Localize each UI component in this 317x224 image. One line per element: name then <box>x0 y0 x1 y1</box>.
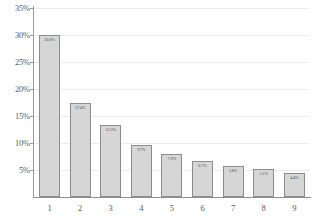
bar-value-label: 5.8% <box>224 168 243 173</box>
y-axis-tick-label: 35% <box>15 3 30 13</box>
bar: 5.8% <box>223 166 244 197</box>
y-axis-tick <box>30 62 33 63</box>
x-axis-tick-label: 7 <box>223 203 244 213</box>
y-axis-tick <box>30 8 33 9</box>
gridline <box>33 35 309 36</box>
y-axis-tick <box>30 35 33 36</box>
y-axis-tick <box>30 170 33 171</box>
x-axis-tick-label: 2 <box>70 203 91 213</box>
y-axis-tick <box>30 89 33 90</box>
bar-chart: 5%10%15%20%25%30%35% 30.0%17.4%13.3%9.7%… <box>0 0 317 224</box>
bar: 5.1% <box>253 169 274 197</box>
bar: 4.4% <box>284 173 305 197</box>
x-axis-tick-label: 6 <box>192 203 213 213</box>
x-axis-tick-label: 9 <box>284 203 305 213</box>
bar: 9.7% <box>131 145 152 197</box>
bar: 6.7% <box>192 161 213 197</box>
y-axis-labels: 5%10%15%20%25%30%35% <box>0 0 30 224</box>
gridline <box>33 62 309 63</box>
y-axis-tick-label: 5% <box>19 165 30 175</box>
bar-value-label: 30.0% <box>40 37 59 42</box>
y-axis-tick <box>30 143 33 144</box>
bar-value-label: 7.9% <box>162 156 181 161</box>
gridline <box>33 8 309 9</box>
bar-value-label: 6.7% <box>193 163 212 168</box>
x-axis-tick-label: 3 <box>100 203 121 213</box>
bar-value-label: 4.4% <box>285 175 304 180</box>
x-axis-tick-label: 8 <box>253 203 274 213</box>
bar-value-label: 9.7% <box>132 147 151 152</box>
x-axis-line <box>33 197 311 198</box>
plot-area: 30.0%17.4%13.3%9.7%7.9%6.7%5.8%5.1%4.4% … <box>33 0 311 224</box>
bar-value-label: 13.3% <box>101 127 120 132</box>
y-axis-tick <box>30 116 33 117</box>
x-axis-tick-label: 1 <box>39 203 60 213</box>
bar-value-label: 5.1% <box>254 171 273 176</box>
x-axis-tick-label: 5 <box>161 203 182 213</box>
bar-value-label: 17.4% <box>71 105 90 110</box>
bar: 13.3% <box>100 125 121 197</box>
y-axis-tick-label: 30% <box>15 30 30 40</box>
y-axis-tick-label: 20% <box>15 84 30 94</box>
gridline <box>33 89 309 90</box>
bar: 17.4% <box>70 103 91 197</box>
bar: 30.0% <box>39 35 60 197</box>
bar: 7.9% <box>161 154 182 197</box>
y-axis-tick-label: 25% <box>15 57 30 67</box>
y-axis-tick-label: 10% <box>15 138 30 148</box>
x-axis-tick-label: 4 <box>131 203 152 213</box>
y-axis-line <box>33 6 34 197</box>
y-axis-tick-label: 15% <box>15 111 30 121</box>
